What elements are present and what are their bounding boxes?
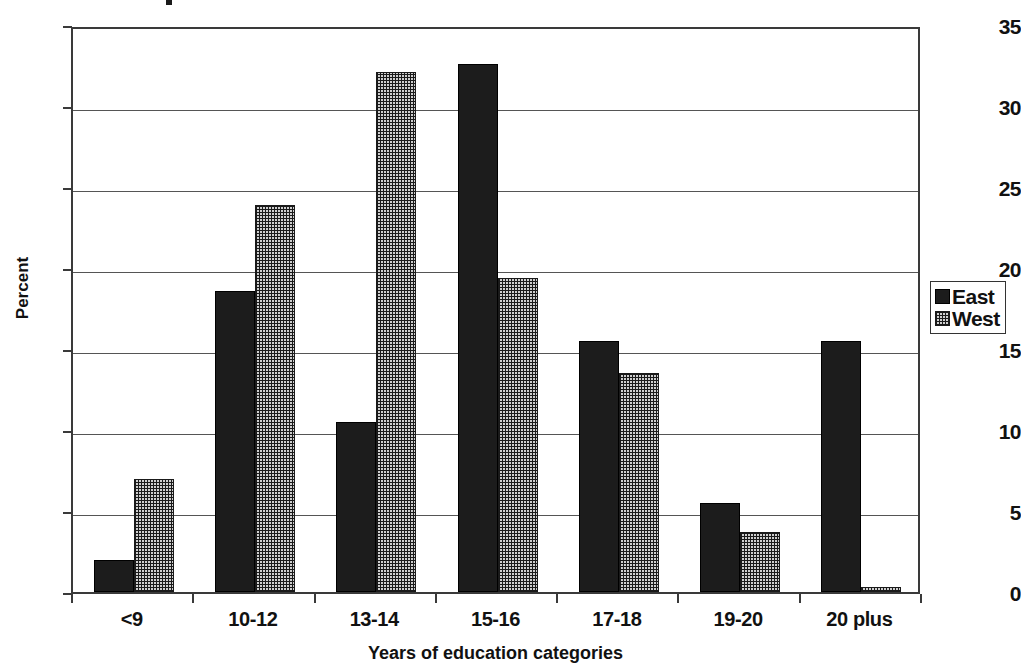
bar-east-3 [458, 64, 498, 592]
bar-west-2 [376, 72, 416, 592]
y-tick-label: 35 [975, 16, 1021, 37]
legend: East West [930, 281, 1006, 334]
x-tick-label: 17-18 [556, 608, 677, 631]
y-tick-label: 0 [975, 583, 1021, 604]
legend-label-east: East [952, 286, 994, 307]
y-tick-label: 30 [975, 97, 1021, 118]
bar-east-0 [94, 560, 134, 592]
title-remnant-mark [166, 0, 172, 5]
x-tick-mark [192, 594, 194, 603]
bar-east-5 [700, 503, 740, 592]
bar-east-1 [215, 291, 255, 592]
bar-east-2 [336, 422, 376, 592]
bar-west-4 [619, 373, 659, 592]
x-tick-mark [677, 594, 679, 603]
x-tick-mark [556, 594, 558, 603]
legend-swatch-west-icon [935, 311, 950, 326]
legend-item-west: West [935, 307, 1000, 329]
x-tick-mark [71, 594, 73, 603]
x-tick-label: <9 [71, 608, 192, 631]
x-tick-label: 10-12 [192, 608, 313, 631]
bar-west-1 [255, 205, 295, 592]
legend-swatch-east-icon [935, 289, 950, 304]
bar-west-3 [498, 278, 538, 592]
x-tick-label: 13-14 [314, 608, 435, 631]
y-tick-label: 20 [975, 259, 1021, 280]
x-tick-label: 19-20 [677, 608, 798, 631]
bar-chart: Percent 05101520253035 <910-1213-1415-16… [0, 0, 1021, 672]
bar-west-0 [134, 479, 174, 592]
y-axis-title: Percent [13, 218, 33, 358]
x-axis-title: Years of education categories [71, 643, 920, 664]
x-tick-label: 20 plus [799, 608, 920, 631]
x-tick-mark [314, 594, 316, 603]
y-tick-label: 5 [975, 502, 1021, 523]
y-tick-label: 15 [975, 340, 1021, 361]
bar-west-5 [740, 532, 780, 592]
y-tick-label: 25 [975, 178, 1021, 199]
x-tick-mark [920, 594, 922, 603]
x-tick-label: 15-16 [435, 608, 556, 631]
bar-west-6 [861, 587, 901, 592]
plot-area [71, 27, 920, 594]
legend-item-east: East [935, 285, 1000, 307]
x-tick-mark [435, 594, 437, 603]
y-tick-label: 10 [975, 421, 1021, 442]
x-tick-mark [799, 594, 801, 603]
legend-label-west: West [952, 308, 1000, 329]
bar-east-4 [579, 341, 619, 592]
bar-east-6 [821, 341, 861, 592]
